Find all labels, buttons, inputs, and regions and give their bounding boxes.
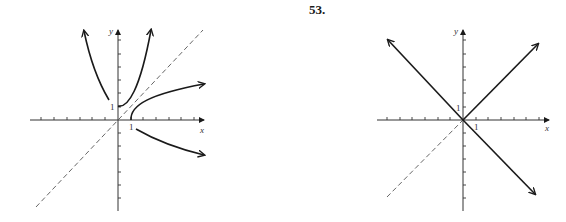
figure-canvas: y x 1 1 (0, 0, 566, 222)
left-parabola-right-branch (118, 30, 151, 106)
right-y-label: y (453, 26, 458, 36)
right-ray-upper-left (388, 40, 463, 120)
right-ray-upper-right (463, 44, 538, 120)
right-ray-lower-right (463, 120, 535, 194)
left-inverse-upper-branch (131, 84, 204, 120)
left-y-label: y (108, 26, 113, 36)
left-parabola-left-branch (84, 31, 109, 100)
left-identity-line (36, 30, 203, 207)
left-y-tick-one: 1 (110, 102, 115, 112)
right-x-tick-one: 1 (474, 122, 479, 132)
left-x-tick-one: 1 (129, 122, 134, 132)
left-inverse-lower-branch (136, 129, 204, 155)
right-graph: y x 1 1 (377, 26, 549, 211)
right-y-tick-one: 1 (456, 103, 461, 113)
right-dashed-line (387, 120, 463, 197)
left-graph: y x 1 1 (30, 26, 204, 211)
right-x-label: x (544, 123, 549, 133)
left-x-label: x (199, 125, 204, 135)
